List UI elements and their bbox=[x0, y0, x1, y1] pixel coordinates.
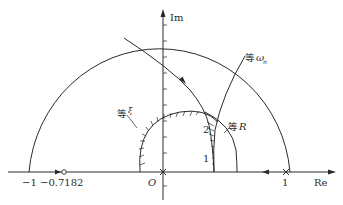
equal-omega-curve bbox=[214, 56, 245, 172]
xi-leader-line bbox=[127, 115, 137, 128]
imag-axis-label: Im bbox=[170, 12, 184, 23]
tick-minus-one: −1 bbox=[22, 177, 37, 188]
tick-zero-point: −0.7182 bbox=[40, 177, 83, 188]
real-locus-arrow-right-icon bbox=[262, 170, 269, 175]
svg-text:等: 等 bbox=[228, 121, 238, 132]
equal-xi-label: 等 ξ bbox=[117, 106, 133, 119]
real-axis-label: Re bbox=[314, 177, 328, 188]
svg-text:R: R bbox=[238, 121, 247, 132]
origin-label: O bbox=[148, 177, 156, 188]
real-locus-arrow-left-icon bbox=[55, 170, 61, 175]
point-2-label: 2 bbox=[203, 124, 209, 135]
outer-circle bbox=[29, 49, 290, 172]
svg-text:ξ: ξ bbox=[128, 106, 133, 115]
equal-omega-label: 等 ω n bbox=[245, 52, 267, 65]
svg-text:n: n bbox=[263, 58, 267, 65]
svg-text:等: 等 bbox=[245, 52, 255, 63]
imag-axis-arrow-icon bbox=[161, 9, 166, 17]
point-1-label: 1 bbox=[203, 153, 209, 164]
tick-one: 1 bbox=[282, 177, 288, 188]
equal-R-label: 等 R bbox=[228, 121, 247, 132]
real-axis-arrow-icon bbox=[328, 170, 336, 175]
zero-circle-icon bbox=[62, 170, 67, 175]
svg-text:等: 等 bbox=[117, 108, 127, 119]
root-locus-curve bbox=[124, 38, 214, 172]
xi-hatching bbox=[139, 111, 199, 165]
root-locus-diagram: Im Re O −1 −0.7182 1 2 1 等 ω n 等 R 等 ξ bbox=[0, 0, 343, 205]
